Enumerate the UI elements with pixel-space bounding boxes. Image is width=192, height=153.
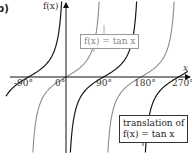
tick-label-neg90: -90° xyxy=(14,78,33,88)
tick-label-270: 270° xyxy=(172,78,192,88)
legend-translation-line2: f(x) = tan x xyxy=(123,129,184,140)
y-axis-label: f(x) xyxy=(43,1,58,11)
tick-label-180: 180° xyxy=(134,78,156,88)
tick-label-0: 0° xyxy=(55,78,65,88)
legend-translation: translation of f(x) = tan x xyxy=(119,115,188,143)
legend-tan-x: f(x) = tan x xyxy=(80,34,139,49)
part-label: b) xyxy=(0,3,9,14)
legend-translation-line1: translation of xyxy=(123,118,184,129)
x-axis-label: x xyxy=(183,63,188,73)
tick-label-90: 90° xyxy=(96,78,112,88)
